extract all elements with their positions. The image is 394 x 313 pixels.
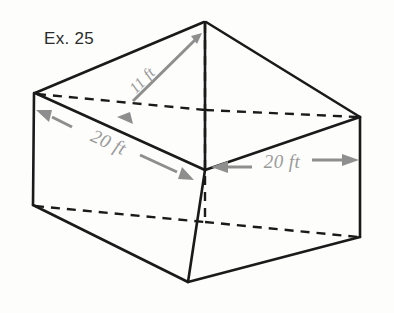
hidden-edge-bottomback-bottomright bbox=[205, 222, 358, 237]
geometry-diagram: 11 ft 20 ft 20 ft Ex. bbox=[0, 0, 394, 313]
dim-right-arrowhead-end bbox=[342, 154, 359, 166]
dim-left-shaft-lower bbox=[140, 155, 177, 172]
dim-left-shaft-upper bbox=[52, 117, 72, 127]
edge-topfront-bottomfront bbox=[188, 170, 205, 282]
hidden-edge-topleft-topback bbox=[37, 94, 205, 110]
dim-right-arrowhead-start bbox=[211, 161, 228, 173]
dim-left-arrowhead-start bbox=[36, 110, 52, 122]
edge-bottomleft-bottomfront bbox=[33, 205, 188, 282]
hidden-edges-group bbox=[35, 24, 358, 237]
dim-left-arrowhead-end bbox=[178, 167, 194, 180]
dimension-slant-11ft: 11 ft bbox=[117, 33, 202, 124]
dimension-base-right-20ft: 20 ft bbox=[211, 151, 359, 173]
dimension-base-left-20ft: 20 ft bbox=[36, 110, 194, 180]
dim-label-20ft-left: 20 ft bbox=[88, 125, 130, 159]
edge-topleft-bottomleft bbox=[33, 93, 34, 205]
edge-apex-topright bbox=[206, 22, 360, 117]
dim-slant-arrowhead-corner bbox=[117, 112, 133, 124]
edge-bottomfront-bottomright bbox=[188, 237, 360, 282]
visible-edges-group bbox=[33, 22, 360, 282]
hidden-edge-topback-topright bbox=[205, 110, 358, 117]
dim-label-20ft-right: 20 ft bbox=[264, 151, 301, 172]
exercise-caption: Ex. 25 bbox=[44, 29, 94, 48]
exercise-figure: 11 ft 20 ft 20 ft Ex. bbox=[0, 0, 394, 313]
